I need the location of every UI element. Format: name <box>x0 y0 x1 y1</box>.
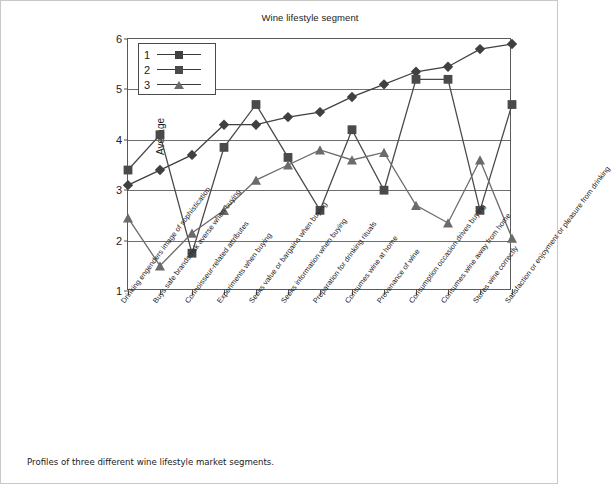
data-point-triangle-icon <box>411 201 421 210</box>
legend-label: 2 <box>144 64 155 76</box>
data-point-square-icon <box>380 186 389 195</box>
data-point-square-icon <box>252 100 261 109</box>
data-point-triangle-icon <box>315 145 325 154</box>
y-tick-label: 5 <box>116 83 122 95</box>
data-point-diamond-icon <box>347 92 357 102</box>
chart-title: Wine lifestyle segment <box>1 12 559 23</box>
data-point-diamond-icon <box>251 119 261 129</box>
data-point-diamond-icon <box>443 62 453 72</box>
data-point-diamond-icon <box>315 107 325 117</box>
legend-item[interactable]: 3 <box>144 77 211 92</box>
legend-label: 3 <box>144 79 155 91</box>
series-line <box>128 79 512 253</box>
x-tick-mark <box>512 289 513 295</box>
x-category-label: Satisfaction or enjoyment or pleasure fr… <box>503 164 612 305</box>
data-point-diamond-icon <box>155 165 165 175</box>
plot-area: Average 123456 1 2 3 <box>127 38 511 290</box>
data-point-square-icon <box>220 143 229 152</box>
legend-item[interactable]: 1 <box>144 47 211 62</box>
data-point-triangle-icon <box>123 213 133 222</box>
data-point-diamond-icon <box>379 79 389 89</box>
y-tick-label: 4 <box>116 134 122 146</box>
legend-label: 1 <box>144 49 155 61</box>
data-point-triangle-icon <box>251 176 261 185</box>
data-point-square-icon <box>444 75 453 84</box>
data-point-triangle-icon <box>507 233 517 242</box>
y-tick-label: 3 <box>116 184 122 196</box>
data-point-square-icon <box>412 75 421 84</box>
y-tick-label: 6 <box>116 33 122 45</box>
data-point-square-icon <box>156 130 165 139</box>
y-tick-label: 2 <box>116 235 122 247</box>
data-point-square-icon <box>508 100 517 109</box>
data-point-square-icon <box>316 206 325 215</box>
chart-legend: 1 2 3 <box>138 43 216 95</box>
data-point-square-icon <box>124 166 133 175</box>
data-point-triangle-icon <box>347 155 357 164</box>
y-tick-label: 1 <box>116 285 122 297</box>
legend-item[interactable]: 2 <box>144 62 211 77</box>
data-point-diamond-icon <box>283 112 293 122</box>
data-point-square-icon <box>188 249 197 258</box>
legend-symbol-diamond-icon <box>155 48 203 62</box>
legend-symbol-triangle-icon <box>155 78 203 92</box>
data-point-square-icon <box>348 125 357 134</box>
figure-caption: Profiles of three different wine lifesty… <box>27 457 274 467</box>
data-point-square-icon <box>476 206 485 215</box>
data-point-diamond-icon <box>475 44 485 54</box>
data-point-diamond-icon <box>507 39 517 49</box>
series-group-2 <box>124 75 517 258</box>
data-point-triangle-icon <box>379 148 389 157</box>
data-point-triangle-icon <box>475 155 485 164</box>
data-point-triangle-icon <box>443 218 453 227</box>
legend-symbol-square-icon <box>155 63 203 77</box>
